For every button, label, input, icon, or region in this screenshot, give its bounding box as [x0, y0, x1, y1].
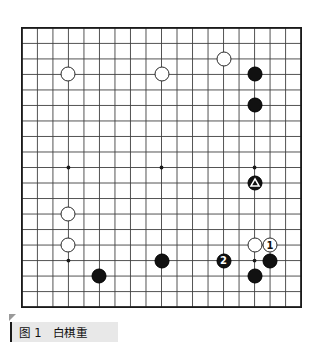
stone-layer[interactable]: 21 — [21, 27, 302, 308]
move-number-label: 1 — [267, 240, 274, 250]
white-stone[interactable] — [216, 51, 231, 66]
white-stone[interactable] — [61, 207, 76, 222]
move-number-label: 2 — [220, 256, 227, 266]
black-stone[interactable] — [263, 253, 278, 268]
black-stone[interactable] — [154, 253, 169, 268]
figure-caption: 图 1 白棋重 — [10, 322, 118, 342]
white-stone[interactable]: 1 — [263, 238, 278, 253]
corner-fold-marker-icon — [9, 314, 16, 321]
white-stone[interactable] — [61, 238, 76, 253]
figure-caption-text: 图 1 白棋重 — [19, 324, 87, 340]
go-problem-figure: 21 图 1 白棋重 — [0, 0, 322, 345]
black-stone[interactable] — [92, 269, 107, 284]
white-stone[interactable] — [154, 67, 169, 82]
white-stone[interactable] — [61, 67, 76, 82]
black-stone[interactable]: 2 — [216, 253, 231, 268]
white-stone[interactable] — [247, 238, 262, 253]
triangle-mark-icon — [247, 176, 262, 191]
black-stone[interactable] — [247, 67, 262, 82]
go-board[interactable]: 21 — [21, 27, 302, 308]
black-stone[interactable] — [247, 98, 262, 113]
black-stone[interactable] — [247, 269, 262, 284]
